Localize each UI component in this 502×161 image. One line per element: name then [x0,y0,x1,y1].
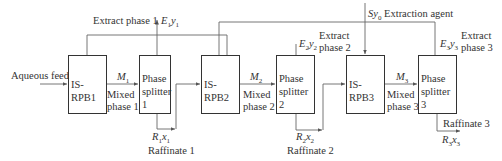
unit-phase-splitter-3: Phasesplitter 3 [418,55,457,114]
extract2-name: Extractphase 2 [319,30,351,54]
raffinate3-name: Raffinate 3 [443,118,490,130]
m2-symbol: M2 [250,71,262,87]
raffinate2-name: Raffinate 2 [287,145,334,157]
raffinate3-symbol: R3x3 [442,134,460,150]
unit-label: IS-RPB3 [349,78,384,104]
feed-label: Aqueous feed [11,70,69,82]
unit-label: Phasesplitter 2 [279,72,314,111]
m1-symbol: M1 [117,71,129,87]
extract3-symbol: E3y3 [440,38,458,54]
r1-to-rpb2 [176,84,200,129]
unit-label: Phasesplitter 3 [421,72,456,111]
extract1-symbol: E1y1 [161,15,179,31]
r2-arrow [296,113,322,130]
agent-label: Sy0 Extraction agent [368,8,453,24]
unit-label: Phasesplitter 1 [142,72,171,111]
extract3-name: Extractphase 3 [461,30,493,54]
unit-is-rpb1: IS-RPB1 [68,55,107,114]
unit-phase-splitter-2: Phasesplitter 2 [276,55,315,114]
unit-is-rpb2: IS-RPB2 [201,55,240,114]
unit-is-rpb3: IS-RPB3 [346,55,385,114]
unit-label: IS-RPB2 [204,78,239,104]
raffinate1-name: Raffinate 1 [148,145,195,157]
r2-to-rpb3 [323,84,345,130]
m2-name: Mixedphase 2 [243,89,275,113]
m3-symbol: M3 [396,71,408,87]
m3-name: Mixedphase 3 [387,89,419,113]
unit-phase-splitter-1: Phasesplitter 1 [139,55,171,114]
m1-name: Mixedphase 1 [107,89,139,113]
unit-label: IS-RPB1 [71,78,106,104]
r1-arrow [157,113,175,129]
extract1-name: Extract phase 1 [93,15,158,27]
extract2-symbol: E2y2 [299,38,317,54]
